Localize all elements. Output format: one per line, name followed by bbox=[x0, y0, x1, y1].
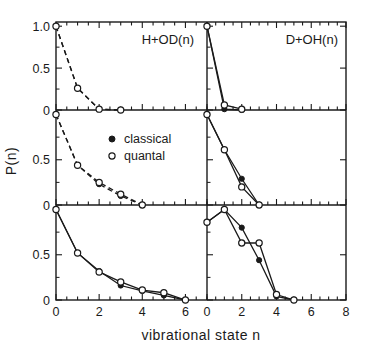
x-tick-label: 6 bbox=[308, 305, 315, 319]
x-tick-label: 6 bbox=[182, 305, 189, 319]
data-point-quantal bbox=[239, 184, 245, 190]
data-point-quantal bbox=[96, 269, 102, 275]
y-tick-label: 0.5 bbox=[33, 153, 50, 167]
data-point-quantal bbox=[204, 111, 210, 117]
data-point-quantal bbox=[221, 102, 227, 108]
x-tick-label: 4 bbox=[273, 305, 280, 319]
data-point-quantal bbox=[53, 111, 59, 117]
y-tick-label: 0 bbox=[43, 199, 50, 213]
series-line-classical bbox=[56, 26, 121, 110]
x-axis-title: vibrational state n bbox=[141, 327, 260, 343]
data-point-quantal bbox=[118, 191, 124, 197]
y-axis-title: P(n) bbox=[3, 147, 19, 175]
y-tick-label: 1.0 bbox=[33, 20, 50, 34]
panel-r1-c0: H+OD(n)D+OH(n)classicalquantalvibrationa… bbox=[3, 32, 338, 343]
legend-marker-quantal bbox=[109, 153, 115, 159]
x-tick-labels: 0246024681.00.500.500.50H+OD(n)D+OH(n)cl… bbox=[3, 20, 350, 343]
data-point-quantal bbox=[74, 250, 80, 256]
y-axis-ticks: 1.00.500.500.50H+OD(n)D+OH(n)classicalqu… bbox=[3, 20, 346, 343]
data-point-quantal bbox=[204, 23, 210, 29]
legend-label-classical: classical bbox=[124, 132, 171, 146]
series-line-quantal bbox=[56, 26, 121, 110]
data-point-classical bbox=[257, 258, 262, 263]
x-tick-label: 8 bbox=[343, 305, 350, 319]
panel-title-left: H+OD(n) bbox=[142, 32, 194, 47]
plot-frame: 0246024681.00.500.500.50H+OD(n)D+OH(n)cl… bbox=[3, 20, 350, 343]
figure-root: 0246024681.00.500.500.50H+OD(n)D+OH(n)cl… bbox=[0, 0, 366, 356]
panel-r1-c1: H+OD(n)D+OH(n)classicalquantalvibrationa… bbox=[3, 32, 338, 343]
plot-border bbox=[56, 22, 346, 300]
panel-r0-c1: H+OD(n)D+OH(n)classicalquantalvibrationa… bbox=[3, 23, 338, 343]
panel-r0-c0: H+OD(n)D+OH(n)classicalquantalvibrationa… bbox=[3, 23, 338, 343]
data-point-quantal bbox=[118, 279, 124, 285]
data-point-quantal bbox=[204, 219, 210, 225]
series-line-classical bbox=[207, 210, 294, 300]
data-point-quantal bbox=[53, 23, 59, 29]
x-tick-label: 0 bbox=[204, 305, 211, 319]
data-point-quantal bbox=[139, 287, 145, 293]
data-point-quantal bbox=[53, 206, 59, 212]
data-point-quantal bbox=[256, 202, 262, 208]
series-line-quantal bbox=[207, 210, 294, 300]
y-tick-label: 0.5 bbox=[33, 62, 50, 76]
data-point-quantal bbox=[239, 106, 245, 112]
panel-title-right: D+OH(n) bbox=[286, 32, 338, 47]
y-tick-label: 0 bbox=[43, 104, 50, 118]
data-point-quantal bbox=[256, 240, 262, 246]
x-tick-label: 2 bbox=[96, 305, 103, 319]
data-point-classical bbox=[239, 176, 244, 181]
y-tick-label: 0 bbox=[43, 294, 50, 308]
x-tick-label: 2 bbox=[238, 305, 245, 319]
data-point-quantal bbox=[96, 106, 102, 112]
panel-r2-c0: H+OD(n)D+OH(n)classicalquantalvibrationa… bbox=[3, 32, 338, 343]
data-point-quantal bbox=[139, 202, 145, 208]
data-point-quantal bbox=[74, 162, 80, 168]
x-tick-label: 4 bbox=[139, 305, 146, 319]
y-tick-label: 0.5 bbox=[33, 248, 50, 262]
legend-marker-classical bbox=[109, 136, 115, 142]
data-point-quantal bbox=[161, 290, 167, 296]
x-tick-label: 0 bbox=[53, 305, 60, 319]
data-point-quantal bbox=[118, 107, 124, 113]
data-point-quantal bbox=[221, 206, 227, 212]
data-point-quantal bbox=[96, 179, 102, 185]
data-point-classical bbox=[239, 225, 244, 230]
data-point-quantal bbox=[239, 240, 245, 246]
data-point-quantal bbox=[291, 297, 297, 303]
data-point-quantal bbox=[182, 297, 188, 303]
data-point-quantal bbox=[221, 147, 227, 153]
plot-canvas: 0246024681.00.500.500.50H+OD(n)D+OH(n)cl… bbox=[0, 0, 366, 356]
x-axis-ticks: 0246024681.00.500.500.50H+OD(n)D+OH(n)cl… bbox=[3, 20, 350, 343]
series-line-classical bbox=[207, 115, 259, 205]
axis-titles: vibrational state nP(n) bbox=[3, 147, 261, 343]
series-line-quantal bbox=[207, 115, 259, 205]
data-point-quantal bbox=[74, 85, 80, 91]
legend-label-quantal: quantal bbox=[124, 149, 165, 163]
data-point-quantal bbox=[273, 291, 279, 297]
